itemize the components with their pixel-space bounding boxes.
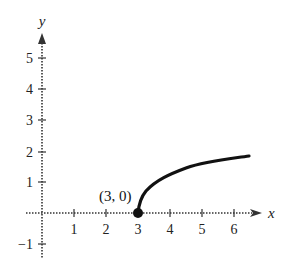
y-axis-arrow-icon bbox=[38, 33, 46, 44]
y-tick-label-3: 3 bbox=[26, 113, 33, 128]
y-tick-label-2: 2 bbox=[26, 145, 33, 160]
x-tick-label-2: 2 bbox=[103, 222, 110, 237]
y-axis-label: y bbox=[37, 13, 46, 29]
x-tick-label-5: 5 bbox=[199, 222, 206, 237]
x-tick-label-3: 3 bbox=[135, 222, 142, 237]
y-tick-label-1: 1 bbox=[26, 175, 33, 190]
point-annotation: (3, 0) bbox=[99, 188, 132, 205]
y-tick-label-neg1: −1 bbox=[18, 237, 33, 252]
x-tick-label-1: 1 bbox=[71, 222, 78, 237]
x-tick-label-4: 4 bbox=[167, 222, 174, 237]
y-tick-label-5: 5 bbox=[26, 51, 33, 66]
x-tick-label-6: 6 bbox=[231, 222, 238, 237]
y-tick-label-4: 4 bbox=[26, 82, 33, 97]
function-graph: 1 2 3 4 5 6 5 4 3 2 1 −1 y x (3, 0) bbox=[0, 0, 281, 267]
sqrt-curve bbox=[138, 156, 249, 213]
endpoint-marker bbox=[133, 208, 143, 218]
x-axis-label: x bbox=[267, 205, 275, 221]
